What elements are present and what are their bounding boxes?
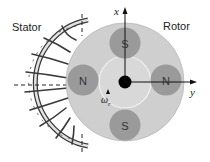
rotor-label: Rotor — [163, 20, 190, 32]
omega-subscript: r — [108, 100, 111, 108]
stator-label: Stator — [12, 21, 41, 33]
omega-symbol: ω — [101, 94, 108, 105]
x-axis-label: x — [114, 5, 119, 17]
motor-diagram: Stator Rotor x y ωr S N N S — [0, 0, 210, 162]
magnet-bottom-pole: S — [121, 120, 128, 132]
y-axis-label: y — [190, 86, 195, 98]
magnet-left-pole: N — [79, 75, 87, 87]
magnet-top-pole: S — [121, 38, 128, 50]
angular-velocity-label: ωr — [101, 94, 111, 108]
magnet-right-pole: N — [162, 75, 170, 87]
